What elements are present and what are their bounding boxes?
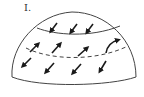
arrow-down-left-icon <box>73 64 81 73</box>
arrow-down-left-icon <box>46 63 54 72</box>
arrow-down-left-icon <box>23 58 31 66</box>
arrow-up-right-icon <box>52 44 60 53</box>
wind-belt-diagram: I. <box>0 0 144 97</box>
hemisphere-drawing <box>0 0 144 97</box>
arrow-up-right-icon <box>30 44 38 52</box>
arrow-down-left-icon <box>51 23 57 31</box>
arrow-up-right-icon <box>78 48 87 56</box>
bottom-band-arrows <box>23 58 106 73</box>
arrow-down-left-icon <box>87 24 93 32</box>
top-band-boundary <box>37 26 120 34</box>
hemisphere-outline <box>12 12 136 85</box>
arrow-down-left-icon <box>100 61 106 71</box>
arrow-down-left-icon <box>71 24 77 32</box>
top-band-arrows <box>51 23 93 32</box>
middle-band-dashed-boundary <box>26 46 128 58</box>
